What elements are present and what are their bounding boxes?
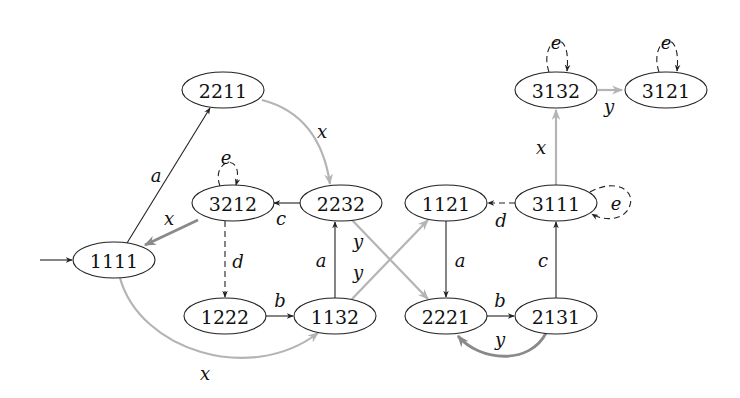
edge-label-a: a [316, 250, 327, 271]
edge-label-e: e [611, 193, 622, 214]
edge-label-x: x [164, 208, 174, 229]
state-diagram: a x e x c d b a x y y d e a b y c x e [0, 0, 740, 398]
node-label: 2211 [199, 80, 247, 102]
edge-label-x: x [200, 363, 210, 384]
node-3212: 3212 [192, 185, 274, 221]
node-label: 2232 [317, 193, 365, 215]
edge-label-a: a [151, 165, 162, 186]
node-label: 3212 [209, 193, 257, 215]
node-3111: 3111 [515, 185, 597, 221]
node-label: 2221 [422, 306, 470, 328]
edge-label-x: x [317, 121, 327, 142]
edge-label-y: y [603, 96, 615, 117]
node-2211: 2211 [182, 72, 264, 108]
edge-label-c: c [538, 250, 548, 271]
node-label: 1111 [90, 250, 138, 272]
node-2221: 2221 [405, 298, 487, 334]
node-label: 1222 [201, 306, 249, 328]
edge-label-b: b [494, 290, 506, 311]
edge-label-d: d [495, 210, 507, 231]
edge-label-x: x [536, 137, 546, 158]
node-label: 3132 [532, 80, 580, 102]
edge-label-e: e [661, 32, 672, 53]
edge-label-d: d [232, 251, 244, 272]
node-2131: 2131 [515, 298, 597, 334]
edge-label-y: y [352, 231, 364, 252]
edge-label-y: y [494, 329, 506, 350]
node-3132: 3132 [515, 72, 597, 108]
node-label: 1132 [311, 306, 359, 328]
node-label: 3111 [532, 193, 580, 215]
edge-2211-2232 [262, 100, 330, 184]
node-1222: 1222 [184, 298, 266, 334]
edge-label-a: a [455, 250, 466, 271]
edge-label-c: c [276, 208, 286, 229]
node-1132: 1132 [294, 298, 376, 334]
node-2232: 2232 [300, 185, 382, 221]
node-3121: 3121 [625, 72, 707, 108]
edge-label-y: y [352, 262, 364, 283]
edge-label-e: e [221, 147, 232, 168]
node-1111: 1111 [73, 242, 155, 278]
node-1121: 1121 [405, 185, 487, 221]
edge-label-e: e [551, 32, 562, 53]
node-label: 1121 [422, 193, 470, 215]
node-label: 3121 [642, 80, 690, 102]
node-label: 2131 [532, 306, 580, 328]
edge-label-b: b [274, 290, 286, 311]
